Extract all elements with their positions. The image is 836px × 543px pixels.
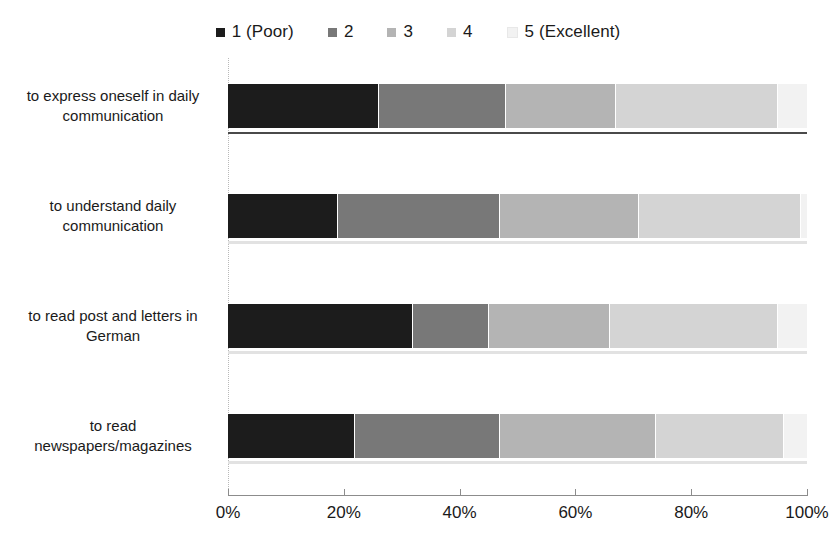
bar-segment[interactable] [379,84,506,128]
bar-baseline [228,132,807,134]
x-axis-tick [344,489,345,496]
legend-label: 4 [463,23,473,40]
x-axis-tick [460,489,461,496]
x-axis-tick [575,489,576,496]
bar-track [228,414,807,458]
bar-row [228,304,807,348]
bar-segment[interactable] [610,304,778,348]
legend-label: 3 [403,23,413,40]
legend-item[interactable]: 1 (Poor) [216,23,294,40]
chart-legend: 1 (Poor)2345 (Excellent) [0,14,836,48]
x-axis-tick-label: 40% [443,503,477,523]
bar-row [228,194,807,238]
x-axis-tick [228,489,229,496]
category-label-line: communication [6,106,220,126]
bar-segment[interactable] [228,194,338,238]
x-axis-tick-label: 80% [674,503,708,523]
stacked-bar-chart: 1 (Poor)2345 (Excellent) to express ones… [0,0,836,543]
legend-item[interactable]: 3 [387,23,413,40]
bar-segment[interactable] [656,414,783,458]
category-label: to readnewspapers/magazines [6,416,220,456]
category-label: to read post and letters inGerman [6,306,220,346]
legend-label: 5 (Excellent) [525,23,621,40]
bar-segment[interactable] [500,414,656,458]
bar-segment[interactable] [801,194,807,238]
category-label: to express oneself in dailycommunication [6,86,220,126]
plot-area [228,58,807,495]
bar-segment[interactable] [338,194,500,238]
x-axis-tick-label: 20% [327,503,361,523]
bar-segment[interactable] [778,84,807,128]
bar-segment[interactable] [228,414,355,458]
x-axis-tick-label: 0% [216,503,241,523]
category-label-line: to read post and letters in [6,306,220,326]
legend-swatch-icon [328,28,337,37]
x-axis-tick [691,489,692,496]
x-axis-tick-label: 100% [785,503,828,523]
x-axis-tick-label: 60% [558,503,592,523]
legend-item[interactable]: 5 (Excellent) [507,23,621,40]
category-label-line: German [6,326,220,346]
bar-segment[interactable] [228,304,413,348]
bar-segment[interactable] [413,304,488,348]
legend-swatch-icon [387,28,396,37]
legend-swatch-icon [216,28,225,37]
legend-swatch-icon [507,27,518,38]
x-axis-tick [807,489,808,496]
legend-swatch-icon [447,28,456,37]
bar-segment[interactable] [355,414,500,458]
bar-segment[interactable] [489,304,611,348]
category-label: to understand dailycommunication [6,196,220,236]
category-label-line: to read [6,416,220,436]
bar-baseline [228,351,807,354]
category-label-line: newspapers/magazines [6,436,220,456]
legend-label: 2 [344,23,354,40]
bar-segment[interactable] [784,414,807,458]
bar-track [228,84,807,128]
bar-baseline [228,461,807,464]
bar-segment[interactable] [778,304,807,348]
bar-track [228,304,807,348]
legend-item[interactable]: 2 [328,23,354,40]
bar-segment[interactable] [639,194,801,238]
bar-track [228,194,807,238]
x-axis-line [228,495,808,496]
bar-row [228,414,807,458]
category-label-line: to express oneself in daily [6,86,220,106]
legend-item[interactable]: 4 [447,23,473,40]
bar-segment[interactable] [506,84,616,128]
category-label-line: to understand daily [6,196,220,216]
legend-label: 1 (Poor) [232,23,294,40]
category-label-line: communication [6,216,220,236]
bar-segment[interactable] [500,194,639,238]
bar-baseline [228,241,807,244]
bar-row [228,84,807,128]
bar-segment[interactable] [616,84,778,128]
bar-segment[interactable] [228,84,379,128]
